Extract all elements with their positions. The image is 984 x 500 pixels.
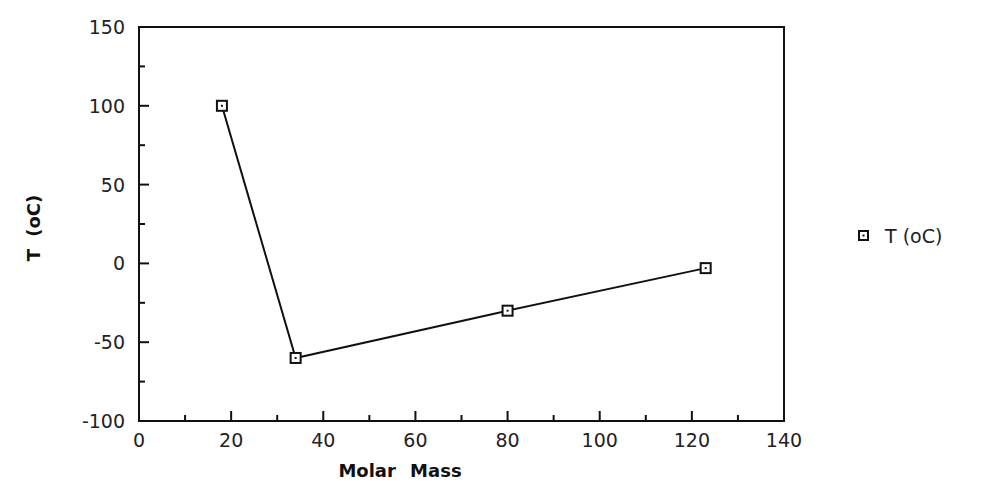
x-tick-label: 0 bbox=[133, 429, 145, 451]
series-line bbox=[217, 101, 711, 363]
x-tick-label: 20 bbox=[219, 429, 243, 451]
y-axis-title: T (oC) bbox=[23, 195, 44, 262]
x-tick-label: 60 bbox=[403, 429, 427, 451]
x-tick-label: 100 bbox=[582, 429, 618, 451]
legend: T (oC) bbox=[859, 225, 942, 247]
legend-label: T (oC) bbox=[884, 225, 942, 247]
x-tick-label: 80 bbox=[495, 429, 519, 451]
x-axis-title: Molar Mass bbox=[338, 460, 461, 481]
plot-frame bbox=[139, 27, 784, 421]
x-tick-label: 140 bbox=[766, 429, 802, 451]
y-tick-label: 50 bbox=[101, 174, 125, 196]
y-tick-label: 100 bbox=[89, 95, 125, 117]
y-tick-label: -100 bbox=[82, 410, 125, 432]
x-axis: 020406080100120140 bbox=[133, 411, 802, 451]
x-tick-label: 40 bbox=[311, 429, 335, 451]
y-tick-label: 150 bbox=[89, 16, 125, 38]
y-tick-label: 0 bbox=[113, 252, 125, 274]
x-tick-label: 120 bbox=[674, 429, 710, 451]
y-tick-label: -50 bbox=[94, 331, 125, 353]
chart: -100-50050100150 020406080100120140 Mola… bbox=[0, 0, 984, 500]
